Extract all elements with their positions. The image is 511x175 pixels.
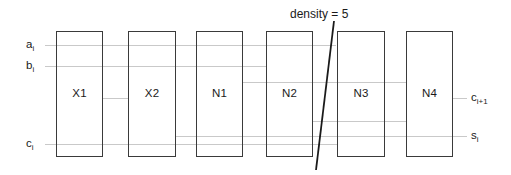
label-s-i: si [471, 130, 479, 144]
label-c-i-plus-1: ci+1 [471, 92, 488, 106]
block-x1[interactable]: X1 [56, 31, 103, 157]
block-n1[interactable]: N1 [196, 31, 243, 157]
block-label: X1 [72, 88, 86, 100]
block-n3[interactable]: N3 [337, 31, 385, 157]
label-a-i: ai [26, 39, 34, 53]
block-label: N4 [422, 88, 437, 100]
block-x2[interactable]: X2 [128, 31, 176, 157]
block-label: N3 [353, 88, 368, 100]
x1-x2-wire [103, 98, 129, 99]
block-label: X2 [145, 88, 159, 100]
block-n2[interactable]: N2 [266, 31, 313, 157]
c-i-plus-1-wire [453, 98, 467, 99]
label-c-i: ci [26, 138, 34, 152]
signal-subscript: i [32, 44, 34, 53]
density-annotation-label: density = 5 [290, 8, 348, 20]
block-diagram-canvas: X1X2N1N2N3N4 aibici ci+1si density = 5 [0, 0, 511, 175]
block-n4[interactable]: N4 [406, 31, 453, 157]
signal-subscript: i [477, 135, 479, 144]
signal-subscript: i+1 [477, 97, 488, 106]
label-b-i: bi [26, 60, 34, 74]
signal-subscript: i [32, 143, 34, 152]
block-label: N2 [282, 88, 297, 100]
block-label: N1 [212, 88, 227, 100]
signal-subscript: i [32, 65, 34, 74]
